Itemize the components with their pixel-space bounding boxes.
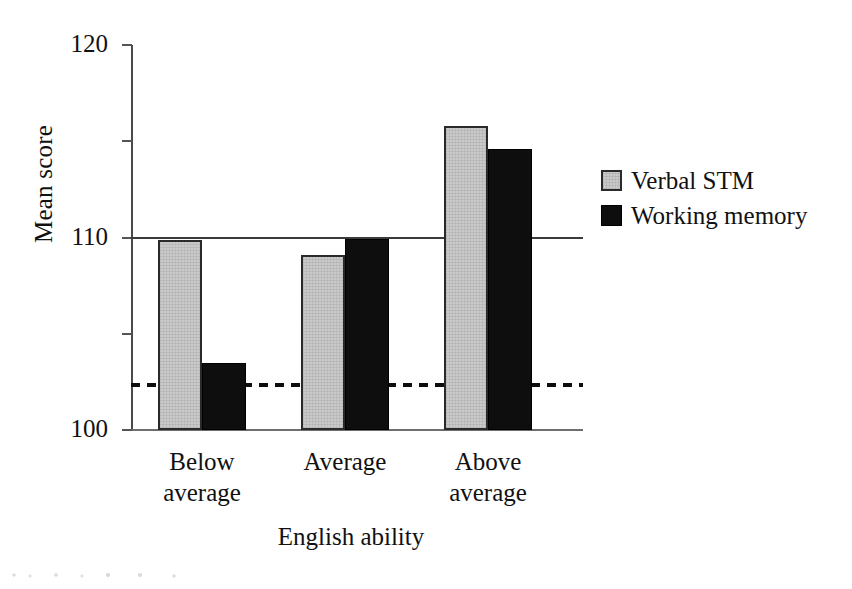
y-axis-tick-label-110: 110 [38, 223, 108, 251]
y-axis-tick-label-120: 120 [38, 30, 108, 58]
x-axis-label-line: Above [388, 446, 588, 477]
legend-label: Verbal STM [631, 167, 754, 195]
x-axis-label-above-average: Aboveaverage [388, 446, 588, 508]
bar-verbal-stm-above-average[interactable] [444, 126, 488, 430]
y-axis-tick-label-100: 100 [38, 415, 108, 443]
bar-verbal-stm-below-average[interactable] [158, 240, 202, 430]
legend-item-working-memory[interactable]: Working memory [601, 198, 807, 233]
scan-artifacts [8, 570, 218, 580]
y-axis-tick-110: 110 [122, 140, 132, 142]
y-axis-tick-120: 120 [122, 44, 132, 46]
bar-verbal-stm-average[interactable] [301, 255, 345, 430]
legend-label: Working memory [631, 202, 807, 230]
x-axis-label-line: average [102, 477, 302, 508]
plot-area: 1201101009080 [131, 45, 583, 430]
y-axis-tick-90: 90 [122, 333, 132, 335]
bar-working-memory-above-average[interactable] [488, 149, 532, 430]
chart-legend: Verbal STMWorking memory [601, 163, 807, 233]
bar-working-memory-below-average[interactable] [202, 363, 246, 430]
legend-item-verbal-stm[interactable]: Verbal STM [601, 163, 807, 198]
x-axis-title-text: English ability [278, 523, 425, 550]
working-memory-swatch [601, 205, 622, 226]
verbal-swatch [601, 170, 622, 191]
x-axis-label-line: average [388, 477, 588, 508]
y-axis-tick-80: 80 [122, 429, 132, 431]
bar-chart-figure: Mean score 1201101009080 BelowaverageAve… [0, 0, 852, 589]
x-axis-title: English ability [0, 523, 852, 551]
bar-working-memory-average[interactable] [345, 239, 389, 430]
